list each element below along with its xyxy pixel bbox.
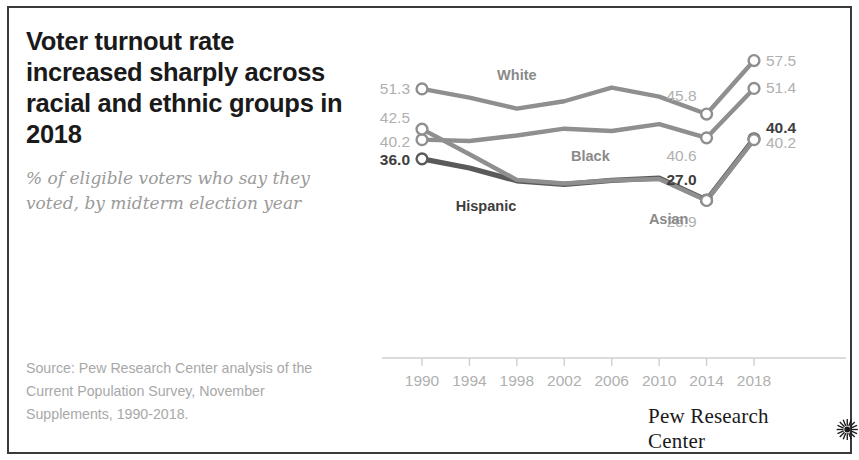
data-point-marker <box>749 134 760 145</box>
starburst-icon <box>836 418 859 441</box>
footer-branding: Pew Research Center <box>648 404 859 454</box>
data-point-marker <box>701 195 712 206</box>
series-lines <box>422 61 754 201</box>
data-point-marker <box>749 55 760 66</box>
source-note: Source: Pew Research Center analysis of … <box>26 357 346 426</box>
data-point-marker <box>417 134 428 145</box>
series-line <box>422 139 754 200</box>
data-point-marker <box>417 124 428 135</box>
data-point-marker <box>701 132 712 143</box>
data-point-marker <box>701 109 712 120</box>
page-title: Voter turnout rate increased sharply acr… <box>26 26 356 150</box>
data-point-marker <box>749 83 760 94</box>
data-point-marker <box>417 153 428 164</box>
x-axis <box>382 358 846 366</box>
chart-subtitle: % of eligible voters who say they voted,… <box>26 166 356 216</box>
chart-canvas <box>360 14 852 394</box>
data-point-marker <box>417 84 428 95</box>
header-block: Voter turnout rate increased sharply acr… <box>26 26 356 216</box>
brand-name: Pew Research Center <box>648 404 827 454</box>
chart-page: Voter turnout rate increased sharply acr… <box>0 0 859 460</box>
series-line <box>422 61 754 114</box>
line-chart: 1990199419982002200620102014201851.357.5… <box>360 14 852 394</box>
